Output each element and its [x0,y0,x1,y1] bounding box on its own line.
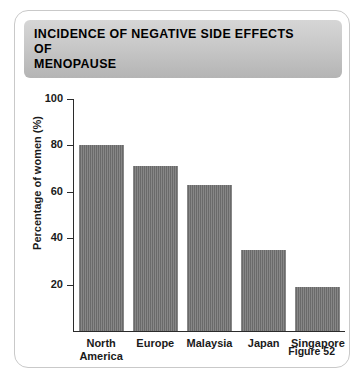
bar-slot [133,99,178,331]
y-axis-tick [67,285,73,286]
x-axis-line [73,331,345,332]
chart-title-banner: INCIDENCE OF NEGATIVE SIDE EFFECTS OF ME… [24,20,342,78]
bar-slot [295,99,340,331]
page-title: INCIDENCE OF NEGATIVE SIDE EFFECTS OF ME… [34,26,308,71]
y-axis-tick-label: 40 [25,232,63,243]
y-axis-tick [67,192,73,193]
bar-series [74,99,345,331]
y-axis-tick [67,99,73,100]
bar [79,145,124,331]
y-axis-tick [67,145,73,146]
figure-caption: Figure 52 [288,345,335,357]
bar-slot [187,99,232,331]
y-axis-tick-label: 20 [25,279,63,290]
y-axis-tick-label: 100 [25,93,63,104]
plot-area: Percentage of women (%) 10080604020 Nort… [15,73,351,369]
figure-card: INCIDENCE OF NEGATIVE SIDE EFFECTS OF ME… [14,10,350,368]
bar [187,185,232,331]
bar [241,250,286,331]
bar [133,166,178,331]
y-axis-tick-label: 80 [25,139,63,150]
bar-slot [79,99,124,331]
bar-slot [241,99,286,331]
y-axis-tick-label: 60 [25,186,63,197]
x-axis-tick-labels: North AmericaEuropeMalaysiaJapanSingapor… [74,337,345,377]
y-axis-tick [67,238,73,239]
bar [295,287,340,331]
